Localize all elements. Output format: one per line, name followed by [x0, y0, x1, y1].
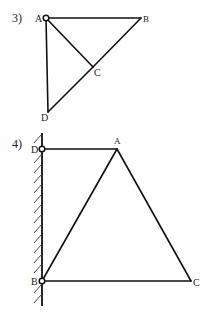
bar-ac: [46, 18, 93, 67]
label-d: D: [41, 112, 48, 123]
pin-joint-d: [39, 146, 45, 152]
bar-ac: [117, 149, 191, 281]
bar-bc: [93, 18, 141, 67]
bar-ab: [42, 149, 117, 281]
pin-joint-a: [43, 15, 49, 21]
figure-3-number: 3): [12, 11, 22, 25]
figure-3: 3) A B C D: [12, 11, 149, 123]
label-c: C: [94, 67, 101, 78]
label-b: B: [143, 14, 149, 24]
label-d: D: [31, 144, 38, 155]
label-a: A: [35, 13, 43, 24]
bar-cd: [48, 67, 93, 112]
figure-4-number: 4): [12, 137, 22, 151]
label-a: A: [114, 136, 121, 146]
truss-diagram: 3) A B C D 4): [0, 0, 217, 322]
label-c: C: [193, 277, 200, 288]
figure-4: 4) D A B C: [12, 133, 200, 306]
pin-joint-b: [39, 278, 45, 284]
label-b: B: [31, 276, 38, 287]
bar-ad: [46, 18, 48, 112]
